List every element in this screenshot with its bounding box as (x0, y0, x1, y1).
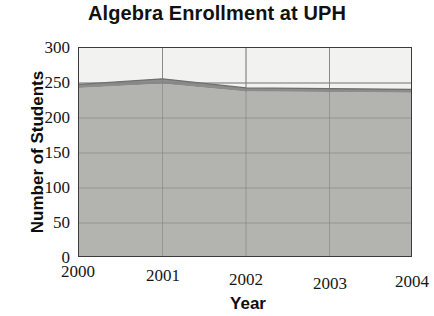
x-tick-2002: 2002 (211, 270, 281, 290)
plot-area (78, 47, 412, 257)
y-tick-150: 150 (2, 143, 70, 163)
y-tick-300: 300 (2, 38, 70, 58)
x-tick-2003: 2003 (295, 274, 365, 294)
x-tick-2001: 2001 (128, 266, 198, 286)
x-axis-label: Year (183, 294, 313, 314)
chart-container: Algebra Enrollment at UPH Number of Stud… (0, 0, 434, 316)
x-tick-2000: 2000 (43, 262, 113, 282)
x-tick-2004: 2004 (377, 272, 434, 292)
y-tick-250: 250 (2, 73, 70, 93)
y-tick-200: 200 (2, 108, 70, 128)
y-tick-50: 50 (2, 213, 70, 233)
area-chart-svg (79, 48, 412, 257)
y-tick-100: 100 (2, 178, 70, 198)
chart-title: Algebra Enrollment at UPH (0, 2, 434, 25)
